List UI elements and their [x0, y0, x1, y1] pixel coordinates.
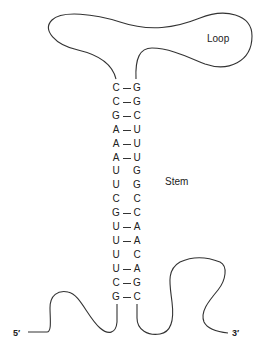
stem-base-right: U [132, 153, 142, 163]
stem-base-left: C [111, 97, 121, 107]
stem-base-left: G [111, 292, 121, 302]
hydrogen-bond [123, 144, 131, 145]
stem-base-right: A [132, 236, 142, 246]
stem-base-right: C [132, 250, 142, 260]
stem-base-right: U [132, 125, 142, 135]
stem-base-left: C [111, 278, 121, 288]
stem-base-right: G [132, 180, 142, 190]
hydrogen-bond [123, 158, 131, 159]
stem-base-left: A [111, 125, 121, 135]
loop-strand [49, 13, 252, 79]
five-prime-label: 5′ [13, 328, 20, 338]
stem-base-left: A [111, 153, 121, 163]
hydrogen-bond [123, 269, 131, 270]
stem-loop-diagram: Loop Stem 5′ 3′ CGCGGCAUAUAUUGUGCCGCUAUA… [0, 0, 261, 348]
stem-base-right: G [132, 278, 142, 288]
five-prime-tail [28, 292, 117, 333]
stem-label: Stem [165, 177, 188, 187]
stem-base-right: U [132, 139, 142, 149]
stem-base-right: C [132, 208, 142, 218]
stem-base-right: C [132, 194, 142, 204]
stem-base-right: G [132, 83, 142, 93]
three-prime-label: 3′ [232, 328, 239, 338]
stem-base-left: U [111, 250, 121, 260]
three-prime-tail [137, 258, 228, 335]
stem-base-left: G [111, 208, 121, 218]
hydrogen-bond [123, 227, 131, 228]
hydrogen-bond [123, 102, 131, 103]
stem-base-right: A [132, 222, 142, 232]
hydrogen-bond [123, 297, 131, 298]
stem-base-right: C [132, 292, 142, 302]
stem-base-right: G [132, 97, 142, 107]
stem-base-left: U [111, 222, 121, 232]
stem-base-left: A [111, 139, 121, 149]
stem-base-left: C [111, 83, 121, 93]
hydrogen-bond [123, 241, 131, 242]
hydrogen-bond [123, 213, 131, 214]
stem-base-right: A [132, 264, 142, 274]
loop-label: Loop [207, 34, 229, 44]
stem-base-left: G [111, 111, 121, 121]
hydrogen-bond [123, 283, 131, 284]
stem-base-left: U [111, 180, 121, 190]
hydrogen-bond [123, 130, 131, 131]
stem-base-right: C [132, 111, 142, 121]
stem-base-left: U [111, 264, 121, 274]
stem-base-left: U [111, 166, 121, 176]
stem-base-left: U [111, 236, 121, 246]
stem-base-right: G [132, 166, 142, 176]
hydrogen-bond [123, 116, 131, 117]
stem-base-left: C [111, 194, 121, 204]
hydrogen-bond [123, 88, 131, 89]
